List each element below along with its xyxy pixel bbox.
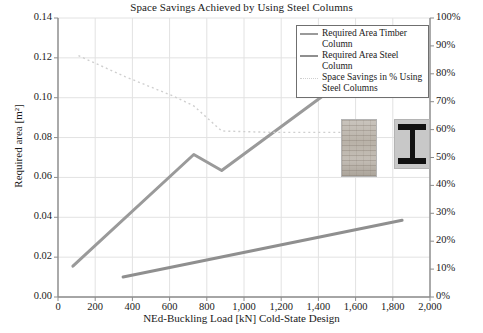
y-tick-label-left: 0.14 bbox=[2, 11, 52, 22]
chart-legend: Required Area Timber ColumnRequired Area… bbox=[296, 25, 429, 98]
y-tick-label-left: 0.08 bbox=[2, 131, 52, 142]
chart-container: Space Savings Achieved by Using Steel Co… bbox=[0, 0, 483, 333]
y-tick-label-left: 0.06 bbox=[2, 170, 52, 181]
legend-label: Required Area Timber Column bbox=[322, 28, 425, 50]
y-tick-label-right: 70% bbox=[436, 95, 483, 106]
timber-column-photo bbox=[341, 119, 377, 177]
steel-i-beam-photo bbox=[394, 119, 430, 169]
y-tick-label-left: 0.12 bbox=[2, 51, 52, 62]
y-tick-label-left: 0.00 bbox=[2, 290, 52, 301]
y-tick-label-right: 40% bbox=[436, 178, 483, 189]
y-tick-label-right: 80% bbox=[436, 67, 483, 78]
x-axis-label: NEd-Buckling Load [kN] Cold-State Design bbox=[0, 312, 483, 324]
y-tick-label-right: 50% bbox=[436, 151, 483, 162]
y-tick-label-right: 30% bbox=[436, 206, 483, 217]
y-tick-label-right: 90% bbox=[436, 39, 483, 50]
y-tick-label-right: 60% bbox=[436, 123, 483, 134]
y-tick-label-right: 100% bbox=[436, 11, 483, 22]
y-tick-label-right: 0% bbox=[436, 290, 483, 301]
legend-item-3[interactable]: Space Savings in % Using Steel Columns bbox=[300, 72, 425, 94]
i-beam-bottom-flange bbox=[398, 158, 426, 164]
y-axis-label-left: Required area [m²] bbox=[12, 91, 24, 201]
legend-swatch-icon bbox=[300, 72, 318, 83]
y-tick-label-left: 0.10 bbox=[2, 91, 52, 102]
y-tick-label-left: 0.04 bbox=[2, 210, 52, 221]
legend-label: Required Area Steel Column bbox=[322, 50, 425, 72]
y-tick-label-left: 0.02 bbox=[2, 250, 52, 261]
y-tick-label-right: 10% bbox=[436, 262, 483, 273]
legend-label: Space Savings in % Using Steel Columns bbox=[322, 72, 425, 94]
y-tick-label-right: 20% bbox=[436, 234, 483, 245]
x-tick-label: 2,000 bbox=[406, 301, 454, 312]
legend-item-2[interactable]: Required Area Steel Column bbox=[300, 50, 425, 72]
i-beam-web bbox=[410, 129, 415, 161]
legend-swatch-icon bbox=[300, 28, 318, 39]
series-line-2 bbox=[123, 220, 402, 277]
legend-item-1[interactable]: Required Area Timber Column bbox=[300, 28, 425, 50]
legend-swatch-icon bbox=[300, 50, 318, 61]
